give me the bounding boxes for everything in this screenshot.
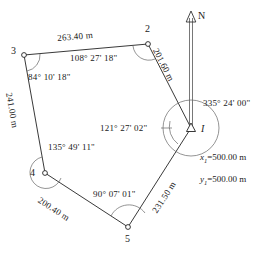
azimuth-label: 335° 24' 00" <box>203 99 250 108</box>
north-arrowhead-icon <box>186 11 196 22</box>
angle-label-3: 84° 10' 18" <box>28 73 71 82</box>
coordinate-x-value: =500.00 m <box>207 152 246 162</box>
station-label-3: 3 <box>11 46 16 56</box>
coordinate-y-value: =500.00 m <box>207 174 246 184</box>
survey-traverse-diagram: N 2 3 4 5 I 263.40 m 201.60 m 241.00 m 2… <box>0 0 276 254</box>
station-label-4: 4 <box>30 168 35 178</box>
station-label-I: I <box>201 124 204 134</box>
station-label-2: 2 <box>145 24 150 34</box>
station-marker-3 <box>22 53 27 58</box>
angle-arc-I <box>169 121 178 144</box>
station-marker-2 <box>146 42 151 47</box>
angle-label-5: 90° 07' 01" <box>93 190 136 199</box>
angle-label-4: 135° 49' 11" <box>48 143 95 152</box>
station-marker-4 <box>43 171 48 176</box>
coordinate-x: x1=500.00 m <box>200 153 246 164</box>
north-arrow <box>186 11 196 126</box>
station-marker-I <box>187 123 196 132</box>
angle-arc-3 <box>27 54 40 71</box>
coordinate-y: y1=500.00 m <box>200 175 246 186</box>
north-label: N <box>198 11 205 21</box>
angle-label-I: 121° 27' 02" <box>100 124 147 133</box>
angle-arc-5 <box>111 205 145 216</box>
angle-label-2: 108° 27' 18" <box>70 54 117 63</box>
station-marker-5 <box>126 225 131 230</box>
side-4-5 <box>45 173 128 227</box>
station-label-5: 5 <box>125 234 130 244</box>
